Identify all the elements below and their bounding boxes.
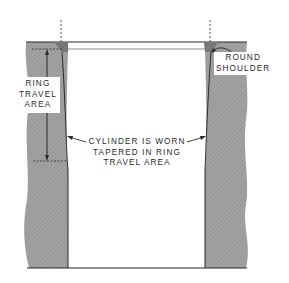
arrow-right-icon — [200, 136, 206, 140]
label-line: TAPERED IN RING — [84, 148, 190, 159]
label-line: TRAVEL — [19, 90, 57, 101]
label-line: SHOULDER — [216, 64, 270, 75]
right-cylinder-wall — [204, 42, 248, 268]
label-line: CYLINDER IS WORN — [84, 137, 190, 148]
label-line: ROUND — [216, 53, 270, 64]
round-shoulder-label: ROUND SHOULDER — [214, 52, 272, 75]
arrow-left-icon — [67, 136, 73, 140]
label-line: TRAVEL AREA — [84, 158, 190, 169]
label-line: RING — [19, 79, 57, 90]
ring-travel-area-label: RING TRAVEL AREA — [16, 77, 60, 113]
cylinder-worn-label: CYLINDER IS WORN TAPERED IN RING TRAVEL … — [84, 137, 190, 169]
label-line: AREA — [19, 100, 57, 111]
